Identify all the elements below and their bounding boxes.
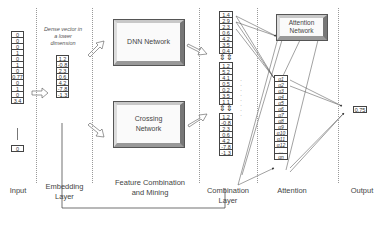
combination-dots: ········: [238, 78, 244, 118]
attention-network-box: Attention Network: [277, 15, 327, 40]
stage-label-feature: Feature Combination and Mining: [110, 178, 190, 198]
dnn-network-box: DNN Network: [114, 20, 184, 65]
stage-label-output: Output: [344, 186, 380, 196]
input-cell: 0: [11, 145, 24, 152]
embedding-note: Dense vector in a lower dimension: [43, 26, 83, 47]
crossing-network-label: Crossing Network: [129, 114, 169, 134]
input-cell: 3.4: [11, 97, 24, 104]
stage-label-embedding: Embedding Layer: [42, 182, 87, 202]
divider-embedding-feature: [92, 8, 93, 183]
combination-vector: 1.4 2.9 2.3 0.6 4.2 3.5 0.4 ⇕⇕ 1.2 5.2 4…: [219, 12, 233, 156]
attention-network-label: Attention Network: [285, 19, 319, 35]
crossing-network-box: Crossing Network: [114, 102, 184, 147]
attention-weights: α1 α2 α3 α4 α5 α6 α7 α8 α9 α10 α11 α12 ……: [274, 76, 288, 160]
alpha-cell: αn: [274, 153, 288, 160]
stage-label-combination: Combination Layer: [206, 186, 250, 206]
input-vector-last: 0: [11, 146, 24, 152]
embedding-vector: 1.2 -0.8 2.3 0.6 4.2 -7.8 -1.3: [56, 56, 69, 98]
input-to-embedding-arrow: [32, 88, 48, 98]
divider-combination-attention: [257, 8, 258, 183]
combination-cell: -1.3: [219, 149, 233, 156]
output-value: 0.75: [353, 106, 367, 113]
stage-label-attention: Attention: [272, 186, 312, 196]
embedding-cell: -1.3: [56, 91, 69, 98]
stage-label-input: Input: [3, 186, 33, 196]
input-vector: 0 0 0 1 0 1 0 0.77 0 1 0 3.4: [11, 32, 24, 104]
input-ellipsis-line: [17, 128, 18, 140]
divider-attention-output: [338, 8, 339, 183]
dnn-network-label: DNN Network: [127, 37, 170, 47]
divider-feature-combination: [199, 8, 200, 183]
divider-input-embedding: [36, 8, 37, 183]
